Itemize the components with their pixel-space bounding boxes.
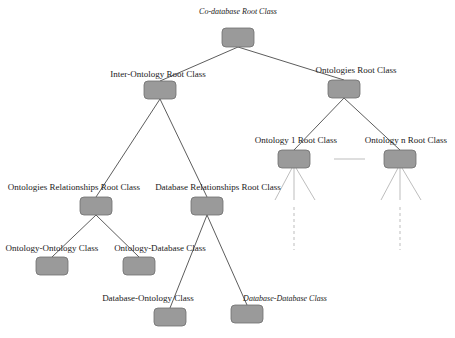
node-box[interactable] [123,257,155,275]
ontology-n-fan-right [402,168,421,200]
node-database-ontology[interactable]: Database-Ontology Class [102,293,194,326]
ontology-n-fan-left [381,168,398,200]
node-ontologies-relationships[interactable]: Ontologies Relationships Root Class [8,182,141,215]
node-label: Ontology 1 Root Class [255,135,338,145]
node-box[interactable] [144,81,176,99]
node-box[interactable] [36,257,68,275]
node-label: Ontologies Relationships Root Class [8,182,141,192]
node-box[interactable] [278,150,310,168]
edge-database-relationships-database-database [207,215,247,305]
node-database-relationships[interactable]: Database Relationships Root Class [155,182,281,215]
node-ontology-n[interactable]: Ontology n Root Class [365,135,448,168]
node-box[interactable] [191,197,223,215]
node-inter-ontology[interactable]: Inter-Ontology Root Class [110,69,206,99]
node-label: Co-database Root Class [199,7,277,16]
node-label: Inter-Ontology Root Class [110,69,206,79]
node-ontology-database[interactable]: Ontology-Database Class [114,243,206,275]
node-label: Database-Ontology Class [102,293,194,303]
node-box[interactable] [328,80,360,98]
edges [52,47,421,308]
node-box[interactable] [222,28,254,47]
node-label: Ontology-Database Class [114,243,206,253]
class-hierarchy-diagram: Co-database Root Class Inter-Ontology Ro… [0,0,455,338]
node-box[interactable] [384,150,416,168]
node-box[interactable] [154,308,186,326]
node-label: Ontology n Root Class [365,135,448,145]
edge-root-ontologies [238,47,344,80]
node-label: Database-Database Class [242,294,327,303]
node-database-database[interactable]: Database-Database Class [231,294,327,323]
node-label: Ontology-Ontology Class [6,243,99,253]
node-box[interactable] [231,305,263,323]
node-label: Database Relationships Root Class [155,182,281,192]
node-ontologies[interactable]: Ontologies Root Class [315,65,397,98]
node-root[interactable]: Co-database Root Class [199,7,277,47]
node-ontology-ontology[interactable]: Ontology-Ontology Class [6,243,99,275]
node-label: Ontologies Root Class [315,65,397,75]
node-box[interactable] [80,197,112,215]
ontology-1-fan-right [296,168,315,200]
node-ontology-1[interactable]: Ontology 1 Root Class [255,135,338,168]
